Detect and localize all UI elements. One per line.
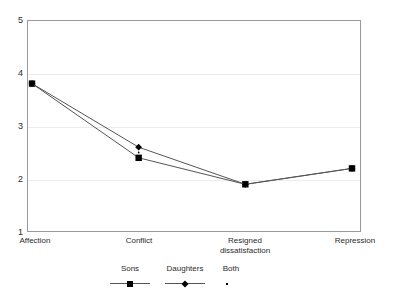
y-axis-tick-4: 4 xyxy=(3,69,23,78)
x-axis-tick-affection: Affection xyxy=(0,236,70,246)
line-chart-figure: 5 4 3 2 1 Affection Conflict Resigned di… xyxy=(0,0,393,305)
legend-label-both: Both xyxy=(206,264,256,274)
diamond-marker-icon xyxy=(181,280,188,287)
x-axis-tick-conflict: Conflict xyxy=(104,236,174,246)
chart-legend: Sons Daughters Both xyxy=(0,264,393,298)
legend-key-sons xyxy=(110,279,150,289)
y-axis-tick-5: 5 xyxy=(3,16,23,25)
square-marker-icon xyxy=(127,281,133,287)
legend-label-sons: Sons xyxy=(100,264,160,274)
gridline-4 xyxy=(28,74,360,75)
legend-key-daughters xyxy=(165,279,205,289)
x-axis-tick-repression: Repression xyxy=(318,236,392,246)
gridline-3 xyxy=(28,127,360,128)
y-axis-tick-3: 3 xyxy=(3,122,23,131)
legend-key-both xyxy=(215,279,239,289)
x-axis-tick-resigned-dissatisfaction: Resigned dissatisfaction xyxy=(202,236,288,256)
dot-marker-icon xyxy=(226,283,228,285)
gridline-2 xyxy=(28,180,360,181)
plot-area xyxy=(27,20,361,232)
y-axis-tick-2: 2 xyxy=(3,175,23,184)
